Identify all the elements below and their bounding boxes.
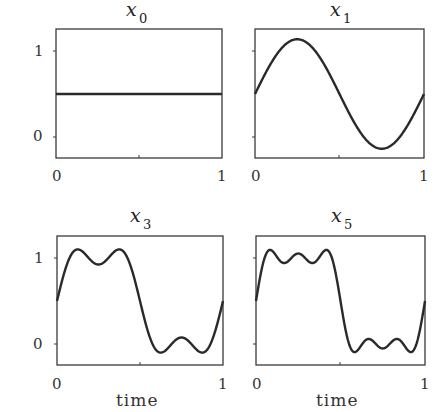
panel-x5: x 5 0 1 time <box>252 204 430 410</box>
series-line <box>256 250 425 352</box>
y-tick-label: 1 <box>34 42 44 60</box>
panel-title-subscript: 3 <box>143 217 151 232</box>
y-tick-label: 0 <box>33 127 43 145</box>
x-axis-label: time <box>316 390 358 410</box>
panel-title: x <box>331 204 342 226</box>
series-line <box>57 249 223 352</box>
x-tick-label: 0 <box>52 167 62 185</box>
panel-x0: x 0 1 0 0 1 <box>33 0 227 185</box>
panel-x3: x 3 1 0 0 1 time <box>33 204 228 410</box>
y-tick-label: 1 <box>34 249 44 267</box>
panel-title: x <box>126 0 137 20</box>
x-tick-label: 1 <box>419 167 429 185</box>
panel-title-subscript: 5 <box>344 217 352 232</box>
x-tick-label: 1 <box>218 375 228 393</box>
panel-title: x <box>130 204 141 226</box>
x-tick-label: 0 <box>52 375 62 393</box>
x-tick-label: 0 <box>252 375 262 393</box>
panel-x1: x 1 0 1 <box>251 0 429 185</box>
x-tick-label: 0 <box>251 167 261 185</box>
x-tick-label: 1 <box>217 167 227 185</box>
fourier-series-figure: x 0 1 0 0 1 x 1 0 1 x 3 1 0 0 1 time <box>0 0 437 412</box>
x-axis-label: time <box>116 390 158 410</box>
series-line <box>255 39 424 149</box>
panel-title-subscript: 1 <box>343 11 351 26</box>
y-tick-label: 0 <box>33 335 43 353</box>
x-tick-label: 1 <box>420 375 430 393</box>
panel-title: x <box>330 0 341 20</box>
panel-title-subscript: 0 <box>139 11 147 26</box>
